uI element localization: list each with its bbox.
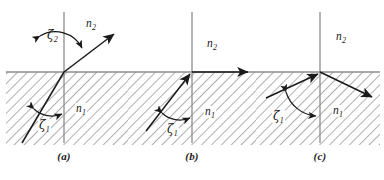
label-n2: n2 (207, 38, 217, 50)
caption-b: (b) (128, 150, 256, 162)
medium-n1-hatch-region (6, 72, 128, 145)
refracted-ray (64, 34, 114, 72)
panel-a: n2 ζ2 n1 ζ1 (a) (0, 0, 128, 180)
label-n2: n2 (86, 18, 96, 30)
label-n2: n2 (336, 31, 346, 43)
caption-a: (a) (0, 150, 128, 162)
caption-c: (c) (256, 150, 384, 162)
label-zeta2: ζ2 (47, 29, 58, 42)
label-n1: n1 (332, 105, 344, 117)
label-n1: n1 (204, 106, 216, 118)
panel-b: n2 n1 ζ1 (b) (128, 0, 256, 180)
label-n1: n1 (75, 103, 87, 115)
label-zeta1: ζ1 (38, 119, 51, 132)
panel-c: n2 n1 ζ1 (c) (256, 0, 384, 180)
label-zeta1: ζ1 (166, 123, 179, 136)
label-zeta1: ζ1 (272, 110, 285, 123)
refraction-figure: n2 ζ2 n1 ζ1 (a) (0, 0, 384, 180)
